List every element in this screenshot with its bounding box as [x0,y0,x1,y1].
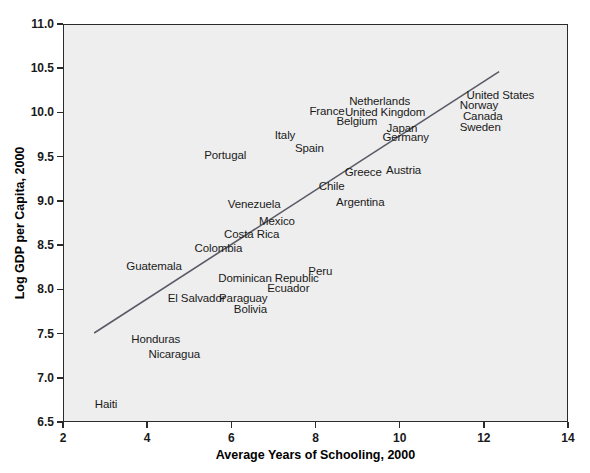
data-point-label: Costa Rica [224,230,279,242]
y-tick-label: 11.0 [31,17,54,31]
x-tick-label: 10 [393,431,406,445]
data-point-label: Nicaragua [148,349,200,361]
x-tick-label: 14 [561,431,574,445]
x-tick-label: 2 [60,431,67,445]
data-point-label: Venezuela [228,199,281,211]
data-point-label: France [309,106,344,118]
data-point-label: Honduras [131,334,180,346]
data-point-label: Dominican Republic [218,273,318,285]
data-point-label: Bolivia [234,304,267,316]
y-tick-label: 10.0 [31,105,54,119]
x-tick-mark [231,422,233,428]
x-tick-mark [62,422,64,428]
data-point-label: El Salvador [168,293,226,305]
x-tick-label: 8 [312,431,319,445]
y-tick-mark [57,67,63,69]
data-point-label: Argentina [336,197,384,209]
y-tick-label: 9.5 [37,150,54,164]
data-point-label: Paraguay [219,293,267,305]
data-point-label: United States [467,90,535,102]
y-tick-label: 10.5 [31,61,54,75]
data-point-label: Ecuador [267,284,309,296]
y-tick-mark [57,200,63,202]
y-axis-title: Log GDP per Capita, 2000 [8,24,32,422]
x-tick-label: 6 [228,431,235,445]
y-tick-mark [57,112,63,114]
x-axis-title: Average Years of Schooling, 2000 [63,448,568,462]
chart-figure: HaitiNicaraguaHondurasBoliviaParaguayEl … [0,0,590,473]
x-tick-label: 12 [477,431,490,445]
data-point-label: Netherlands [349,96,410,108]
data-point-label: Sweden [460,123,501,135]
y-tick-label: 9.0 [37,194,54,208]
y-tick-label: 7.5 [37,327,54,341]
data-point-label: Greece [345,167,382,179]
x-tick-mark [146,422,148,428]
y-tick-mark [57,244,63,246]
plot-area: HaitiNicaraguaHondurasBoliviaParaguayEl … [63,24,568,422]
data-point-label: Chile [319,181,345,193]
data-point-label: Guatemala [126,262,181,274]
data-point-label: Peru [308,266,332,278]
data-point-label: Haiti [95,400,118,412]
trendline-svg [64,25,567,421]
y-tick-mark [57,156,63,158]
y-tick-mark [57,23,63,25]
y-tick-label: 7.0 [37,371,54,385]
data-point-label: Japan [387,124,418,136]
data-point-label: Colombia [195,243,243,255]
x-tick-label: 4 [144,431,151,445]
x-tick-mark [483,422,485,428]
x-tick-mark [315,422,317,428]
data-point-label: Spain [295,143,324,155]
x-tick-mark [567,422,569,428]
data-point-label: United Kingdom [345,108,425,120]
y-tick-mark [57,289,63,291]
data-point-label: Canada [463,111,503,123]
data-point-label: Norway [460,101,498,113]
y-tick-mark [57,333,63,335]
y-tick-label: 6.5 [37,415,54,429]
data-point-label: Portugal [204,150,246,162]
y-tick-label: 8.5 [37,238,54,252]
y-tick-label: 8.0 [37,282,54,296]
data-point-label: Italy [275,131,296,143]
data-point-label: Austria [386,165,421,177]
data-point-label: Mexico [259,216,295,228]
y-tick-mark [57,377,63,379]
x-tick-mark [399,422,401,428]
